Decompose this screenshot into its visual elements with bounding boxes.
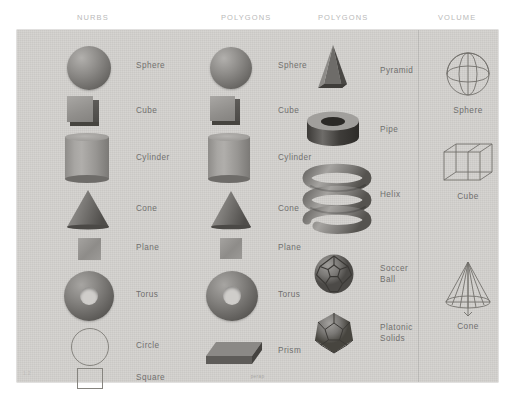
list-item-label: Cube	[136, 106, 157, 117]
list-item: Pyramid	[305, 44, 425, 96]
torus-shape-icon	[206, 271, 258, 321]
list-item-label: Cube	[278, 106, 299, 117]
torus-shape-icon	[64, 271, 114, 321]
list-item-label: Torus	[136, 290, 158, 301]
plane-shape-icon	[78, 238, 101, 260]
plane-shape-icon	[220, 238, 242, 259]
list-item-label: Pipe	[380, 125, 398, 136]
column-header-polygons-primitives: POLYGONS	[221, 13, 271, 22]
cone-shape-icon	[208, 188, 256, 230]
prism-shape-icon	[204, 340, 266, 370]
circle-outline-shape-icon	[71, 328, 109, 366]
list-item: Soccer Ball	[305, 253, 425, 299]
column-header-volume: VOLUME	[438, 13, 476, 22]
list-item-label: Cylinder	[136, 153, 170, 164]
column-header-row: NURBS POLYGONS POLYGONS VOLUME	[0, 13, 515, 29]
platonic-solid-shape-icon	[313, 312, 355, 354]
cube-shape-icon	[67, 96, 111, 130]
primitives-chart-panel: Sphere Cube Cylinder	[17, 30, 498, 382]
list-item-label: Platonic Solids	[380, 323, 413, 344]
list-item: Cube	[63, 94, 183, 130]
list-item: Cone	[63, 188, 183, 232]
corner-mark: 1.2	[23, 371, 31, 376]
cone-shape-icon	[65, 188, 113, 230]
wireframe-sphere-label: Sphere	[438, 106, 498, 115]
cube-shape-icon	[210, 96, 254, 130]
wireframe-sphere-shape-icon	[438, 48, 498, 106]
list-item: Pipe	[305, 105, 425, 155]
cylinder-shape-icon	[208, 133, 256, 183]
pipe-shape-icon	[305, 107, 361, 153]
column-header-nurbs: NURBS	[77, 13, 109, 22]
list-item-label: Plane	[136, 243, 159, 254]
column-header-polygons-advanced: POLYGONS	[318, 13, 368, 22]
list-item: Helix	[305, 160, 425, 238]
wireframe-cone-shape-icon	[438, 258, 498, 320]
wireframe-cube-label: Cube	[438, 192, 498, 201]
soccer-ball-shape-icon	[313, 253, 355, 295]
list-item: Circle	[63, 327, 183, 367]
list-item-label: Sphere	[136, 61, 165, 72]
list-item-label: Plane	[278, 243, 301, 254]
list-item: Sphere	[63, 44, 183, 92]
list-item: Cylinder	[63, 133, 183, 185]
list-item-label: Circle	[136, 341, 160, 352]
list-item-label: Square	[136, 373, 165, 384]
list-item: Plane	[63, 235, 183, 265]
list-item-label: Sphere	[278, 61, 307, 72]
sphere-shape-icon	[67, 46, 111, 90]
bottom-caption: perap	[251, 374, 265, 379]
wireframe-cone-label: Cone	[438, 322, 498, 331]
wireframe-cube-shape-icon	[437, 140, 499, 190]
list-item-label: Cone	[136, 204, 157, 215]
square-outline-shape-icon	[77, 368, 103, 389]
sphere-shape-icon	[210, 47, 252, 89]
list-item-label: Prism	[278, 346, 301, 357]
list-item: Square	[63, 368, 183, 394]
helix-shape-icon	[297, 160, 377, 236]
list-item-label: Soccer Ball	[380, 264, 408, 285]
list-item-label: Torus	[278, 290, 300, 301]
list-item-label: Pyramid	[380, 66, 413, 77]
pyramid-shape-icon	[311, 44, 357, 94]
list-item-label: Helix	[380, 190, 400, 201]
list-item: Platonic Solids	[305, 312, 425, 358]
cylinder-shape-icon	[65, 133, 113, 183]
list-item: Torus	[63, 270, 183, 324]
